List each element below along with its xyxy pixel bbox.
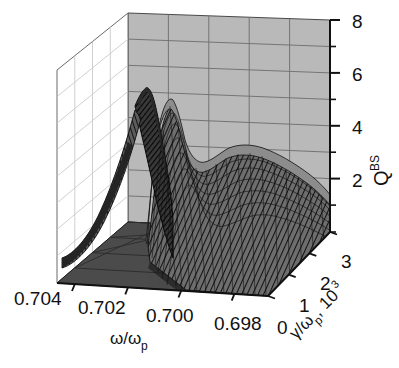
y-tick-label-3: 3 bbox=[341, 251, 352, 272]
x-axis-title-subscript: p bbox=[141, 339, 148, 353]
x-tick-label-0702: 0.702 bbox=[78, 297, 126, 318]
x-axis-title-main: ω/ω bbox=[110, 329, 141, 348]
x-axis-title: ω/ω p bbox=[110, 329, 148, 353]
z-tick-label-4: 4 bbox=[352, 117, 363, 138]
plot-canvas: 8 6 4 2 0.704 0.702 0.700 0.698 0 1 2 3 … bbox=[0, 0, 399, 368]
z-tick-label-6: 6 bbox=[352, 64, 363, 85]
x-tick-label-0700: 0.700 bbox=[146, 305, 194, 326]
z-tick-label-2: 2 bbox=[352, 170, 363, 191]
z-axis-title-main: Q bbox=[370, 170, 392, 186]
y-axis-title: γ/ω p , 10 3 bbox=[283, 278, 352, 347]
z-axis bbox=[330, 20, 340, 232]
z-tick-label-8: 8 bbox=[352, 11, 363, 32]
x-tick-label-0698: 0.698 bbox=[214, 313, 262, 334]
figure-3d-surface-plot: 8 6 4 2 0.704 0.702 0.700 0.698 0 1 2 3 … bbox=[0, 0, 399, 368]
z-axis-title: Q BS bbox=[368, 155, 392, 186]
x-tick-label-0704: 0.704 bbox=[14, 288, 62, 309]
z-axis-title-subscript: BS bbox=[368, 155, 382, 171]
